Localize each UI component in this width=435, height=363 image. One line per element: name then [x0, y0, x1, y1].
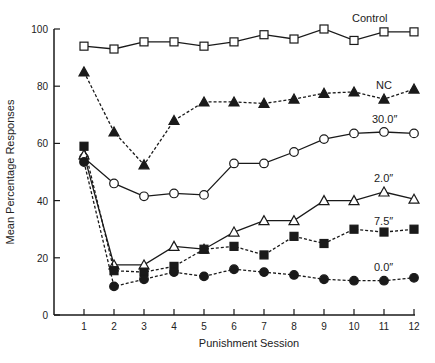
data-point	[80, 142, 88, 150]
data-point	[170, 268, 179, 277]
data-point	[169, 241, 179, 250]
data-point	[290, 232, 298, 240]
data-point	[410, 129, 419, 138]
series-nc: NC	[79, 67, 419, 169]
data-point	[320, 275, 329, 284]
data-point	[379, 187, 389, 196]
series-label: 0.0″	[374, 261, 393, 273]
data-point	[140, 38, 148, 46]
series-75: 7.5″	[80, 142, 418, 276]
x-tick-label: 12	[408, 321, 420, 332]
x-tick-label: 8	[291, 321, 297, 332]
data-point	[350, 129, 359, 138]
data-point	[200, 245, 208, 253]
data-point	[260, 251, 268, 259]
data-point	[380, 28, 388, 36]
data-point	[80, 42, 88, 50]
data-point	[320, 240, 328, 248]
x-tick-label: 4	[171, 321, 177, 332]
data-point	[410, 274, 419, 283]
data-point	[169, 116, 179, 125]
data-point	[110, 282, 119, 291]
series-00: 0.0″	[80, 158, 419, 291]
data-point	[230, 242, 238, 250]
data-point	[319, 88, 329, 97]
data-point	[200, 191, 209, 200]
data-point	[350, 276, 359, 285]
y-tick-label: 0	[42, 310, 48, 321]
data-point	[230, 159, 239, 168]
series-label: 2.0″	[374, 172, 393, 184]
data-point	[410, 225, 418, 233]
data-point	[380, 128, 389, 137]
y-tick-label: 20	[37, 253, 49, 264]
x-axis-title: Punishment Session	[199, 337, 299, 349]
x-tick-label: 1	[81, 321, 87, 332]
data-point	[230, 38, 238, 46]
data-point	[260, 31, 268, 39]
x-tick-label: 2	[111, 321, 117, 332]
x-tick-label: 5	[201, 321, 207, 332]
data-point	[290, 35, 298, 43]
y-tick-label: 80	[37, 81, 49, 92]
data-point	[200, 42, 208, 50]
data-point	[290, 271, 299, 280]
data-point	[80, 158, 89, 167]
x-tick-label: 11	[379, 321, 390, 332]
data-point	[110, 267, 118, 275]
x-tick-label: 3	[141, 321, 147, 332]
data-point	[170, 38, 178, 46]
series-control: Control	[80, 12, 418, 53]
data-point	[140, 275, 149, 284]
data-point	[260, 268, 269, 277]
y-tick-label: 60	[37, 138, 49, 149]
data-point	[229, 227, 239, 236]
x-tick-label: 7	[261, 321, 267, 332]
data-point	[410, 28, 418, 36]
series-label: 7.5″	[374, 215, 393, 227]
y-axis-title: Mean Percentage Responses	[4, 99, 16, 244]
data-point	[230, 265, 239, 274]
series-layer: ControlNC30.0″2.0″7.5″0.0″	[79, 12, 419, 291]
data-point	[350, 36, 358, 44]
x-tick-label: 9	[321, 321, 327, 332]
data-point	[290, 148, 299, 157]
y-tick-label: 100	[31, 24, 48, 35]
series-label: NC	[376, 79, 392, 91]
data-point	[140, 192, 149, 201]
series-label: Control	[352, 12, 387, 24]
data-point	[170, 189, 179, 198]
data-point	[200, 272, 209, 281]
data-point	[199, 97, 209, 106]
data-point	[110, 179, 119, 188]
data-point	[320, 135, 329, 144]
data-point	[110, 45, 118, 53]
series-label: 30.0″	[372, 113, 397, 125]
series-20: 2.0″	[79, 150, 419, 269]
data-point	[350, 225, 358, 233]
data-point	[79, 67, 89, 76]
line-chart: 020406080100123456789101112 ControlNC30.…	[0, 0, 435, 363]
data-point	[380, 276, 389, 285]
series-300: 30.0″	[80, 113, 419, 201]
x-tick-label: 6	[231, 321, 237, 332]
y-tick-label: 40	[37, 196, 49, 207]
data-point	[109, 127, 119, 136]
data-point	[380, 228, 388, 236]
axes: 020406080100123456789101112	[31, 24, 420, 332]
data-point	[289, 94, 299, 103]
data-point	[260, 159, 269, 168]
data-point	[320, 25, 328, 33]
x-tick-label: 10	[348, 321, 360, 332]
data-point	[409, 84, 419, 93]
